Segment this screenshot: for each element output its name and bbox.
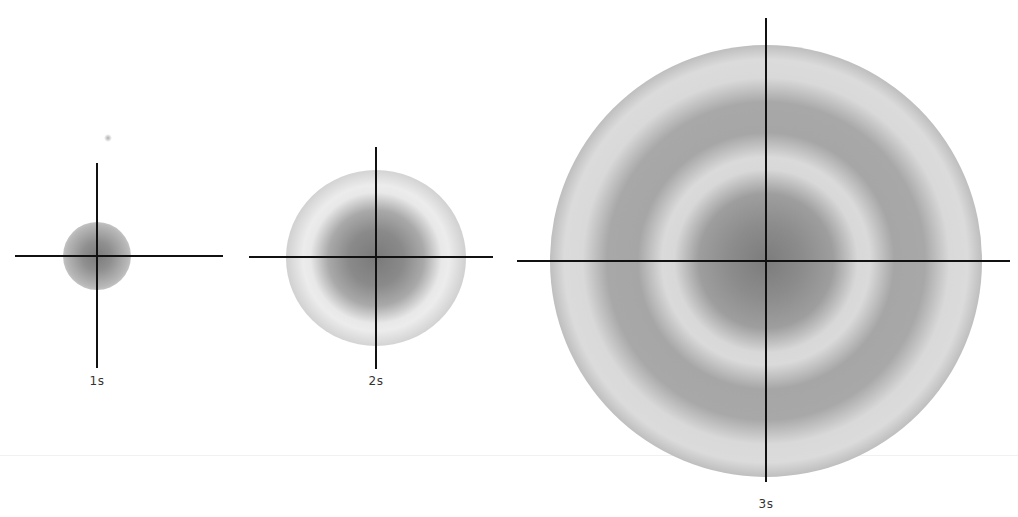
orbital-3s-y-axis xyxy=(765,18,767,482)
page-edge-shadow xyxy=(0,455,1018,456)
orbital-3s-x-axis xyxy=(517,260,1010,262)
orbital-2s-x-axis xyxy=(249,256,493,258)
orbital-3s-label: 3s xyxy=(759,497,774,511)
orbital-2s-label: 2s xyxy=(369,374,384,388)
print-smudge xyxy=(104,134,112,142)
orbital-1s-y-axis xyxy=(96,163,98,368)
orbital-1s-label: 1s xyxy=(90,374,105,388)
orbital-2s-y-axis xyxy=(375,147,377,369)
orbital-1s-x-axis xyxy=(15,255,223,257)
